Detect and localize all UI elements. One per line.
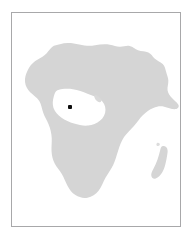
coastal-speck: [156, 143, 159, 146]
locator-map-figure: [0, 0, 193, 243]
map-frame: [11, 12, 181, 227]
africa-map-canvas: [12, 13, 180, 226]
location-marker[interactable]: [68, 105, 72, 109]
